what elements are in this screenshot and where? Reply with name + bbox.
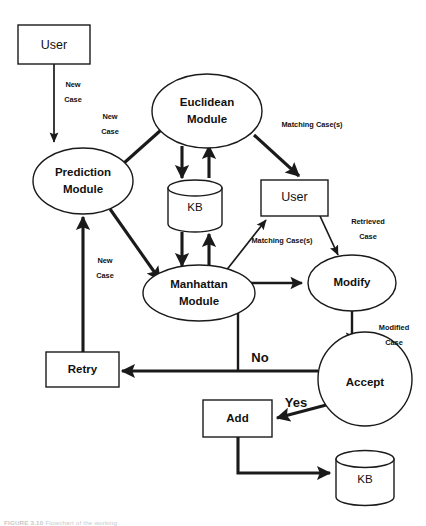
node-modify[interactable]: Modify: [308, 255, 396, 311]
svg-text:Yes: Yes: [285, 395, 307, 410]
node-user-top[interactable]: User: [18, 25, 90, 64]
edge-user-to-modify: [320, 216, 338, 255]
node-kb-top[interactable]: KB: [168, 180, 222, 232]
edge-label-accept-to-retry: No: [251, 350, 268, 365]
svg-text:New: New: [102, 112, 117, 121]
edge-label-manhattan-to-user: Matching Case(s): [251, 236, 313, 245]
node-prediction-module-label-line1: Prediction: [55, 166, 111, 178]
node-user-right-label: User: [281, 190, 307, 204]
svg-text:Case: Case: [101, 127, 119, 136]
node-manhattan-module[interactable]: Manhattan Module: [143, 265, 255, 321]
node-manhattan-module-label-line1: Manhattan: [170, 278, 228, 290]
svg-text:Modified: Modified: [379, 323, 410, 332]
edge-euclidean-to-user: [254, 135, 299, 176]
svg-text:Case: Case: [64, 95, 82, 104]
edge-label-user-to-prediction: New Case: [64, 80, 82, 104]
edge-add-to-kb: [238, 437, 330, 473]
node-retry[interactable]: Retry: [46, 352, 119, 387]
svg-text:Matching Case(s): Matching Case(s): [251, 236, 313, 245]
svg-text:Retrieved: Retrieved: [351, 217, 385, 226]
node-euclidean-module[interactable]: Euclidean Module: [152, 74, 262, 148]
flowchart-canvas: User Prediction Module Euclidean Module …: [0, 0, 426, 526]
node-modify-label: Modify: [333, 276, 371, 288]
node-euclidean-module-label-line2: Module: [187, 113, 227, 125]
edge-manhattan-to-user: [225, 220, 266, 272]
svg-text:Case: Case: [96, 271, 114, 280]
edge-prediction-to-manhattan: [110, 209, 160, 280]
svg-text:Matching Case(s): Matching Case(s): [281, 120, 343, 129]
svg-text:Case: Case: [385, 338, 403, 347]
svg-text:Case: Case: [359, 232, 377, 241]
node-add-label: Add: [226, 412, 248, 424]
node-kb-top-label: KB: [187, 201, 203, 213]
node-euclidean-module-label-line1: Euclidean: [180, 96, 234, 108]
figure-caption-text: Flowchart of the working.: [45, 519, 119, 526]
edge-label-user-to-modify: Retrieved Case: [351, 217, 385, 241]
figure-caption-label: FIGURE 3.10: [4, 519, 43, 526]
node-user-top-label: User: [41, 38, 67, 52]
edge-label-euclidean-to-user: Matching Case(s): [281, 120, 343, 129]
node-add[interactable]: Add: [203, 400, 272, 437]
svg-text:New: New: [97, 256, 112, 265]
node-accept-label: Accept: [346, 376, 385, 388]
node-user-right[interactable]: User: [261, 180, 328, 216]
node-kb-bottom-label: KB: [357, 473, 373, 485]
node-prediction-module[interactable]: Prediction Module: [33, 148, 133, 214]
node-retry-label: Retry: [68, 363, 98, 375]
edge-label-accept-to-add: Yes: [285, 395, 307, 410]
figure-flowchart: User Prediction Module Euclidean Module …: [0, 0, 426, 526]
node-manhattan-module-label-line2: Module: [179, 295, 219, 307]
edge-label-prediction-to-euclidean: New Case: [101, 112, 119, 136]
node-kb-bottom[interactable]: KB: [336, 451, 394, 506]
node-prediction-module-label-line2: Module: [63, 183, 103, 195]
edge-label-prediction-to-manhattan: New Case: [96, 256, 114, 280]
figure-caption: FIGURE 3.10 Flowchart of the working.: [4, 519, 119, 526]
svg-text:No: No: [251, 350, 268, 365]
svg-text:New: New: [65, 80, 80, 89]
